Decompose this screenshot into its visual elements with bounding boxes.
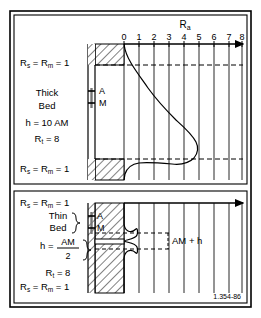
axis-tick-1: 1	[136, 32, 141, 42]
axis-tick-0: 0	[121, 32, 126, 42]
label-bed-name-line1-thick: Thick	[36, 87, 59, 98]
axis-tick-5: 5	[196, 32, 201, 42]
axis-tick-8: 8	[239, 32, 244, 42]
label-bed-name-line2-thin: Bed	[50, 222, 67, 233]
label-thickness-thick: h = 10 AM	[25, 117, 68, 128]
axis-tick-7: 7	[226, 32, 231, 42]
label-thickness-h-thin: h =	[40, 240, 54, 251]
label-thickness-numerator-thin: AM	[61, 237, 75, 247]
annotation-am-plus-h: AM + h	[172, 235, 202, 246]
axis-tick-2: 2	[151, 32, 156, 42]
axis-tick-6: 6	[211, 32, 216, 42]
axis-ticks-thick: 0 1 2 3 4 5 6 7 8	[121, 32, 244, 42]
figure-credit: 1.354-86	[213, 293, 241, 300]
electrode-m-label-thin: M	[97, 223, 105, 233]
label-thickness-denominator-thin: 2	[65, 251, 70, 261]
label-bed-name-line2-thick: Bed	[39, 100, 56, 111]
resistivity-response-figure: Ra 0 1 2 3 4 5 6 7 8	[0, 0, 261, 318]
label-rt-thick: Rt = 8	[35, 133, 60, 145]
label-rt-thin: Rt = 8	[46, 267, 71, 279]
electrode-m-label-thick: M	[99, 98, 107, 108]
electrode-a-label-thin: A	[97, 211, 103, 221]
borehole-shale-top-thick	[88, 44, 95, 65]
upper-shoulder-bed-thick	[95, 44, 124, 65]
label-bed-name-line1-thin: Thin	[49, 210, 67, 221]
electrode-a-label-thick: A	[99, 86, 105, 96]
lower-shoulder-bed-thick	[95, 159, 124, 180]
borehole-shale-bottom-thick	[88, 159, 95, 180]
axis-tick-3: 3	[166, 32, 171, 42]
axis-tick-4: 4	[181, 32, 186, 42]
thin-bed-layer	[95, 239, 124, 244]
